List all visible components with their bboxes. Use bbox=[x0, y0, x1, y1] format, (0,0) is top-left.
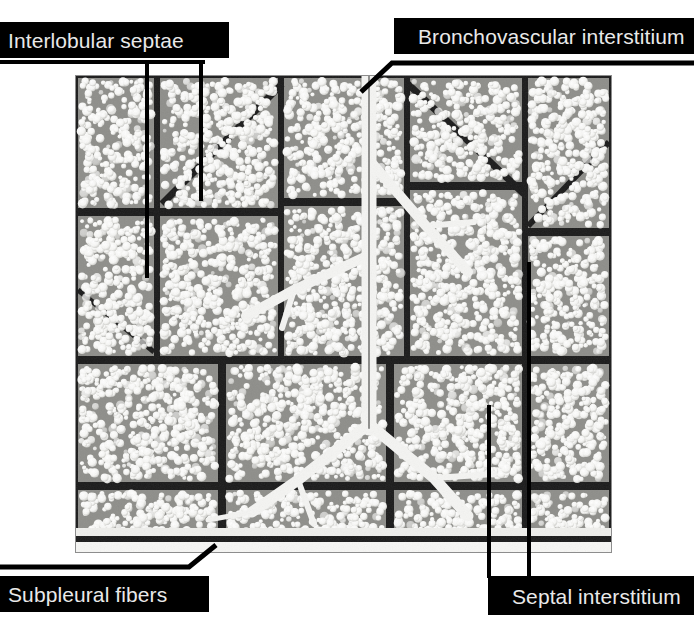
callout-label-interlobular-septae: Interlobular septae bbox=[8, 30, 184, 51]
callout-label-septal-interstitium: Septal interstitium bbox=[512, 586, 681, 607]
callout-label-subpleural-fibers: Subpleural fibers bbox=[8, 584, 167, 605]
callout-subpleural-fibers: Subpleural fibers bbox=[0, 576, 209, 612]
lung-parenchyma-illustration bbox=[76, 76, 611, 552]
callout-label-bronchovascular-interstitium: Bronchovascular interstitium bbox=[418, 26, 685, 47]
callout-bronchovascular-interstitium: Bronchovascular interstitium bbox=[394, 18, 694, 54]
callout-interlobular-septae: Interlobular septae bbox=[0, 22, 229, 58]
callout-septal-interstitium: Septal interstitium bbox=[488, 578, 694, 615]
figure-root: Interlobular septae Bronchovascular inte… bbox=[0, 0, 694, 623]
lung-histology-image bbox=[75, 75, 612, 553]
